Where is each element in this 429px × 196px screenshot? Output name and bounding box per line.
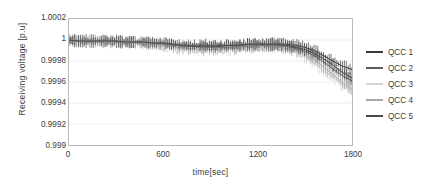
legend-item-label: QCC 5 [388, 112, 413, 121]
x-axis-title: time[sec] [68, 167, 353, 177]
legend-line-icon [366, 51, 383, 53]
y-tick-label: 0.9996 [6, 77, 66, 86]
series-qcc-3 [69, 34, 352, 96]
y-tick-label: 0.9992 [6, 120, 66, 129]
legend-item[interactable]: QCC 3 [366, 76, 429, 92]
legend-item[interactable]: QCC 1 [366, 44, 429, 60]
x-tick-label: 0 [66, 150, 71, 159]
voltage-time-chart: Receiving voltage [p.u] 0.9990.99920.999… [0, 0, 429, 196]
legend-item-label: QCC 2 [388, 64, 413, 73]
legend-line-icon [366, 67, 383, 69]
y-tick-label: 0.999 [6, 141, 66, 150]
y-tick-label: 0.9998 [6, 56, 66, 65]
x-tick-label: 1800 [344, 150, 362, 159]
x-axis-tick-labels: 060012001800 [0, 150, 429, 162]
x-tick-label: 1200 [249, 150, 267, 159]
y-tick-label: 0.9994 [6, 98, 66, 107]
legend-item[interactable]: QCC 5 [366, 108, 429, 124]
legend-item-label: QCC 4 [388, 96, 413, 105]
series-qcc-4 [69, 34, 352, 95]
legend-item[interactable]: QCC 4 [366, 92, 429, 108]
x-tick-label: 600 [156, 150, 170, 159]
legend: QCC 1QCC 2QCC 3QCC 4QCC 5 [366, 44, 429, 124]
plot-area [68, 18, 353, 146]
y-tick-label: 1.0002 [6, 13, 66, 22]
y-axis-tick-labels: 0.9990.99920.99940.99960.999811.0002 [4, 0, 66, 196]
legend-item-label: QCC 3 [388, 80, 413, 89]
legend-item[interactable]: QCC 2 [366, 60, 429, 76]
series-line [69, 40, 352, 69]
legend-item-label: QCC 1 [388, 48, 413, 57]
legend-line-icon [366, 83, 383, 85]
y-tick-label: 1 [6, 34, 66, 43]
series-canvas [69, 19, 352, 145]
legend-line-icon [366, 99, 383, 101]
legend-line-icon [366, 115, 383, 117]
